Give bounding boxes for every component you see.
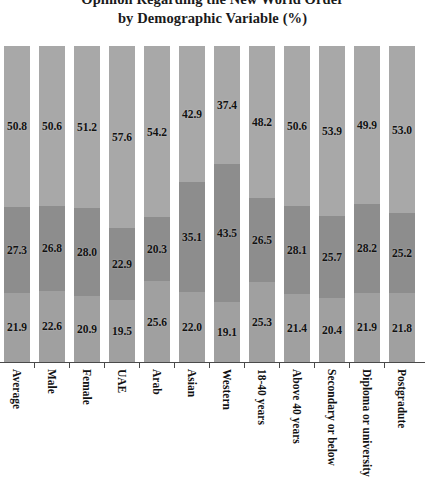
tick-mark: [139, 363, 140, 368]
tick-mark: [34, 363, 35, 368]
x-axis-category-label: Arab: [151, 369, 163, 395]
x-axis-category-label: Male: [46, 369, 58, 394]
x-axis-tick: [39, 363, 65, 368]
bar-value-label: 27.3: [7, 244, 27, 256]
bar-segment-bottom: 21.8: [389, 293, 415, 362]
x-axis-tick: [179, 363, 205, 368]
bar-value-label: 50.6: [287, 120, 307, 132]
x-axis-tick: [144, 363, 170, 368]
stacked-bar: 50.626.822.6: [39, 46, 65, 362]
bar-value-label: 20.9: [77, 323, 97, 335]
tick-mark: [209, 363, 210, 368]
bar-segment-mid: 28.1: [284, 206, 310, 295]
bar-segment-bottom: 25.3: [249, 282, 275, 362]
x-axis-category-slot: Western: [214, 369, 240, 491]
bar-value-label: 43.5: [217, 227, 237, 239]
stacked-bar: 53.025.221.8: [389, 46, 415, 362]
bar-segment-top: 48.2: [249, 46, 275, 198]
bar-segment-top: 53.0: [389, 46, 415, 213]
bar-value-label: 21.4: [287, 322, 307, 334]
x-axis-category-label: Secondary or below: [326, 369, 338, 466]
x-axis-category-label: Diploma or university: [361, 369, 373, 477]
bar-value-label: 37.4: [217, 99, 237, 111]
bar-segment-mid: 20.3: [144, 217, 170, 281]
x-axis-category-slot: Postgradute: [389, 369, 415, 491]
bar-value-label: 28.0: [77, 246, 97, 258]
x-axis-tick: [319, 363, 345, 368]
x-axis-tick: [4, 363, 30, 368]
bar-value-label: 50.8: [7, 120, 27, 132]
bar-segment-top: 51.2: [74, 46, 100, 208]
bar-segment-mid: 35.1: [179, 182, 205, 293]
x-axis-category-labels: AverageMaleFemaleUAEArabAsianWestern18-4…: [0, 369, 425, 491]
x-axis-category-slot: Diploma or university: [354, 369, 380, 491]
tick-mark: [314, 363, 315, 368]
x-axis-category-slot: Average: [4, 369, 30, 491]
x-axis-ticks: [0, 363, 425, 368]
bar-segment-top: 53.9: [319, 46, 345, 216]
bar-segment-top: 49.9: [354, 46, 380, 204]
x-axis-category-slot: Asian: [179, 369, 205, 491]
stacked-bar: 50.628.121.4: [284, 46, 310, 362]
x-axis-category-label: Female: [81, 369, 93, 405]
tick-mark: [279, 363, 280, 368]
bar-segment-bottom: 22.0: [179, 292, 205, 362]
bar-segment-mid: 43.5: [214, 164, 240, 301]
bar-segment-mid: 25.2: [389, 213, 415, 293]
tick-mark: [384, 363, 385, 368]
bar-value-label: 25.6: [147, 316, 167, 328]
bar-segment-top: 50.8: [4, 46, 30, 207]
tick-mark: [244, 363, 245, 368]
stacked-bar: 37.443.519.1: [214, 46, 240, 362]
bar-value-label: 26.8: [42, 242, 62, 254]
bar-value-label: 51.2: [77, 121, 97, 133]
x-axis-category-slot: UAE: [109, 369, 135, 491]
bar-segment-bottom: 21.9: [4, 293, 30, 362]
x-axis-tick: [74, 363, 100, 368]
bar-value-label: 25.7: [322, 251, 342, 263]
bar-value-label: 53.0: [392, 124, 412, 136]
bar-segment-mid: 28.0: [74, 208, 100, 296]
stacked-bar: 49.928.221.9: [354, 46, 380, 362]
stacked-bar: 54.220.325.6: [144, 46, 170, 362]
stacked-bar: 53.925.720.4: [319, 46, 345, 362]
stacked-bar: 57.622.919.5: [109, 46, 135, 362]
bar-value-label: 28.2: [357, 242, 377, 254]
bar-value-label: 42.9: [182, 108, 202, 120]
bar-value-label: 25.2: [392, 247, 412, 259]
bar-value-label: 20.3: [147, 243, 167, 255]
bar-segment-top: 57.6: [109, 46, 135, 228]
bar-value-label: 48.2: [252, 116, 272, 128]
bar-segment-mid: 26.8: [39, 206, 65, 291]
bar-segment-bottom: 19.1: [214, 302, 240, 362]
bar-segment-top: 37.4: [214, 46, 240, 164]
x-axis-category-label: Asian: [186, 369, 198, 397]
bar-segment-bottom: 25.6: [144, 281, 170, 362]
bar-value-label: 19.1: [217, 326, 237, 338]
x-axis-category-slot: Female: [74, 369, 100, 491]
bar-value-label: 22.9: [112, 258, 132, 270]
x-axis-category-slot: Male: [39, 369, 65, 491]
bar-value-label: 49.9: [357, 119, 377, 131]
bar-segment-top: 50.6: [39, 46, 65, 206]
bar-value-label: 53.9: [322, 125, 342, 137]
x-axis-tick: [389, 363, 415, 368]
x-axis-tick: [109, 363, 135, 368]
chart-title: Opinion Regarding the New World Order by…: [0, 0, 425, 28]
x-axis-category-label: Above 40 years: [291, 369, 303, 444]
bar-value-label: 21.9: [357, 321, 377, 333]
x-axis-category-slot: Secondary or below: [319, 369, 345, 491]
bar-value-label: 20.4: [322, 324, 342, 336]
bar-segment-top: 54.2: [144, 46, 170, 217]
chart-title-line-1: Opinion Regarding the New World Order: [0, 0, 425, 9]
x-axis-tick: [249, 363, 275, 368]
bar-segment-mid: 25.7: [319, 216, 345, 297]
bar-segment-mid: 22.9: [109, 228, 135, 300]
bar-segment-bottom: 22.6: [39, 291, 65, 362]
x-axis-category-label: Western: [221, 369, 233, 410]
bar-segment-mid: 26.5: [249, 198, 275, 282]
bar-value-label: 19.5: [112, 325, 132, 337]
plot-area: 50.827.321.950.626.822.651.228.020.957.6…: [0, 46, 425, 362]
chart-title-line-2: by Demographic Variable (%): [0, 9, 425, 28]
bar-value-label: 22.6: [42, 320, 62, 332]
